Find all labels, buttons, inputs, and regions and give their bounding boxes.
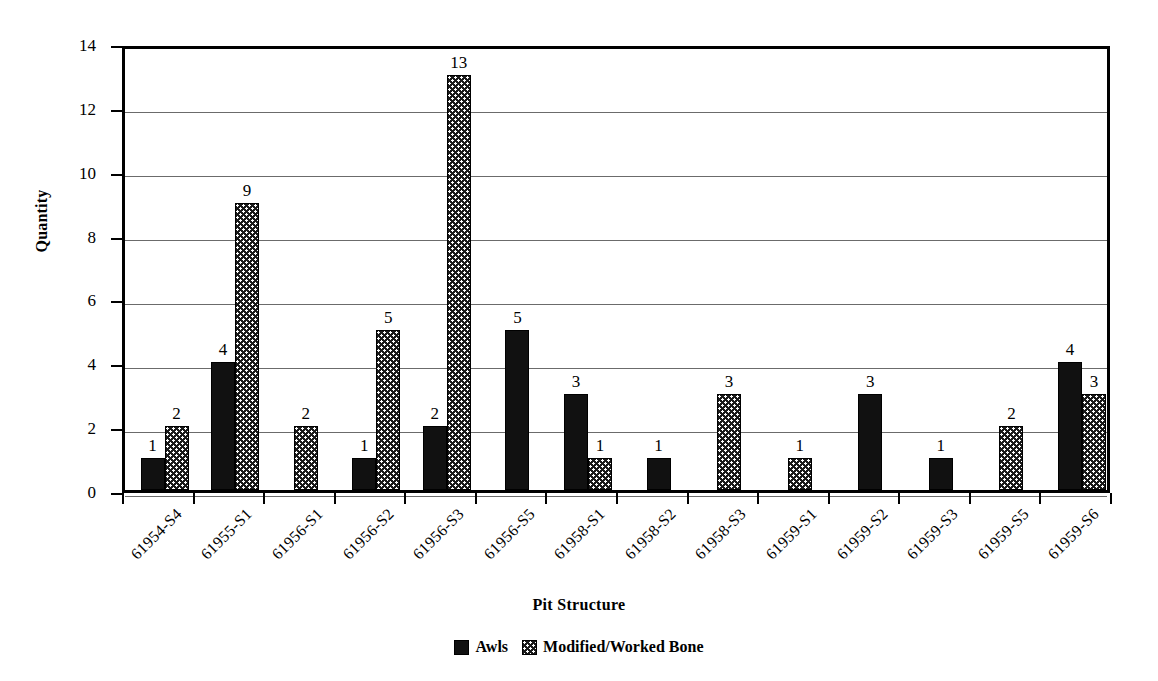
x-tick-mark bbox=[1039, 493, 1041, 504]
y-tick-label: 8 bbox=[88, 228, 97, 248]
x-tick-mark bbox=[404, 493, 406, 504]
bar-awls bbox=[211, 362, 235, 490]
bar-modified-worked-bone bbox=[447, 75, 471, 490]
dotted-black-swatch-icon bbox=[522, 640, 537, 655]
y-tick-label: 6 bbox=[88, 291, 97, 311]
bar-value-label: 2 bbox=[991, 405, 1031, 423]
y-tick: 12 bbox=[0, 110, 122, 111]
x-tick-label: 61956-S2 bbox=[243, 505, 397, 659]
y-tick-label: 14 bbox=[79, 36, 96, 56]
bar-value-label: 3 bbox=[709, 373, 749, 391]
x-tick-label: 61954-S4 bbox=[31, 505, 185, 659]
y-tick-label: 2 bbox=[88, 419, 97, 439]
y-tick-mark bbox=[111, 493, 122, 495]
legend-item-modified-worked-bone: Modified/Worked Bone bbox=[522, 638, 703, 656]
bar-modified-worked-bone bbox=[788, 458, 812, 490]
bar-awls bbox=[647, 458, 671, 490]
x-tick-mark bbox=[757, 493, 759, 504]
bar-value-label: 9 bbox=[227, 182, 267, 200]
bar-modified-worked-bone bbox=[235, 203, 259, 490]
solid-black-swatch-icon bbox=[454, 640, 469, 655]
bar-awls bbox=[423, 426, 447, 490]
x-tick-label: 61959-S1 bbox=[667, 505, 821, 659]
y-tick-mark bbox=[111, 429, 122, 431]
bar-value-label: 5 bbox=[497, 309, 537, 327]
x-tick-mark bbox=[263, 493, 265, 504]
y-tick: 0 bbox=[0, 493, 122, 494]
y-tick-mark bbox=[111, 110, 122, 112]
x-tick-mark bbox=[687, 493, 689, 504]
plot-area: 124921521353113131243 bbox=[122, 46, 1110, 493]
bar-value-label: 13 bbox=[439, 54, 479, 72]
y-axis-ticks: 02468101214 bbox=[0, 46, 122, 493]
bar-value-label: 1 bbox=[639, 437, 679, 455]
x-tick-label: 61955-S1 bbox=[102, 505, 256, 659]
legend-label-modified-worked-bone: Modified/Worked Bone bbox=[543, 638, 703, 656]
x-tick-label: 61959-S5 bbox=[878, 505, 1032, 659]
x-tick-label: 61958-S3 bbox=[596, 505, 750, 659]
bar-value-label: 2 bbox=[157, 405, 197, 423]
bar-value-label: 1 bbox=[580, 437, 620, 455]
y-tick: 10 bbox=[0, 174, 122, 175]
bar-awls bbox=[352, 458, 376, 490]
y-tick-mark bbox=[111, 174, 122, 176]
x-tick-mark bbox=[122, 493, 124, 504]
bar-modified-worked-bone bbox=[999, 426, 1023, 490]
x-tick-mark bbox=[898, 493, 900, 504]
x-tick-mark bbox=[545, 493, 547, 504]
x-tick-mark bbox=[828, 493, 830, 504]
bar-value-label: 2 bbox=[286, 405, 326, 423]
y-tick: 4 bbox=[0, 365, 122, 366]
x-tick-mark bbox=[475, 493, 477, 504]
x-tick-label: 61958-S1 bbox=[455, 505, 609, 659]
bar-modified-worked-bone bbox=[165, 426, 189, 490]
y-tick: 8 bbox=[0, 238, 122, 239]
y-tick: 2 bbox=[0, 429, 122, 430]
bar-modified-worked-bone bbox=[376, 330, 400, 490]
bar-modified-worked-bone bbox=[717, 394, 741, 490]
bar-modified-worked-bone bbox=[1082, 394, 1106, 490]
y-tick: 14 bbox=[0, 46, 122, 47]
bar-value-label: 1 bbox=[780, 437, 820, 455]
x-tick-label: 61956-S3 bbox=[314, 505, 468, 659]
x-tick-mark bbox=[616, 493, 618, 504]
bar-value-label: 3 bbox=[850, 373, 890, 391]
x-axis-ticks bbox=[122, 493, 1110, 505]
y-tick-label: 4 bbox=[88, 355, 97, 375]
x-axis-title: Pit Structure bbox=[0, 596, 1158, 614]
x-tick-mark bbox=[193, 493, 195, 504]
legend-item-awls: Awls bbox=[454, 638, 508, 656]
bar-awls bbox=[141, 458, 165, 490]
x-tick-mark bbox=[334, 493, 336, 504]
bar-modified-worked-bone bbox=[588, 458, 612, 490]
bar-value-label: 3 bbox=[556, 373, 596, 391]
x-tick-label: 61959-S6 bbox=[949, 505, 1103, 659]
chart-legend: Awls Modified/Worked Bone bbox=[0, 638, 1158, 656]
bar-awls bbox=[505, 330, 529, 490]
x-tick-label: 61956-S5 bbox=[384, 505, 538, 659]
bar-awls bbox=[929, 458, 953, 490]
y-tick-mark bbox=[111, 365, 122, 367]
legend-label-awls: Awls bbox=[475, 638, 508, 656]
y-tick-label: 0 bbox=[88, 483, 97, 503]
bar-value-label: 3 bbox=[1074, 373, 1114, 391]
y-tick-mark bbox=[111, 301, 122, 303]
y-tick-mark bbox=[111, 238, 122, 240]
y-tick-label: 12 bbox=[79, 100, 96, 120]
y-tick-mark bbox=[111, 46, 122, 48]
x-tick-label: 61959-S2 bbox=[737, 505, 891, 659]
bars-layer: 124921521353113131243 bbox=[125, 49, 1107, 490]
bar-value-label: 5 bbox=[368, 309, 408, 327]
x-tick-mark bbox=[969, 493, 971, 504]
x-tick-label: 61959-S3 bbox=[808, 505, 962, 659]
bar-awls bbox=[858, 394, 882, 490]
y-tick-label: 10 bbox=[79, 164, 96, 184]
bar-chart: Quantity 02468101214 1249215213531131312… bbox=[0, 0, 1158, 681]
x-tick-label: 61956-S1 bbox=[173, 505, 327, 659]
x-axis-labels: 61954-S461955-S161956-S161956-S261956-S3… bbox=[122, 505, 1110, 600]
bar-value-label: 4 bbox=[1050, 341, 1090, 359]
bar-modified-worked-bone bbox=[294, 426, 318, 490]
y-tick: 6 bbox=[0, 301, 122, 302]
x-tick-label: 61958-S2 bbox=[525, 505, 679, 659]
bar-value-label: 1 bbox=[921, 437, 961, 455]
